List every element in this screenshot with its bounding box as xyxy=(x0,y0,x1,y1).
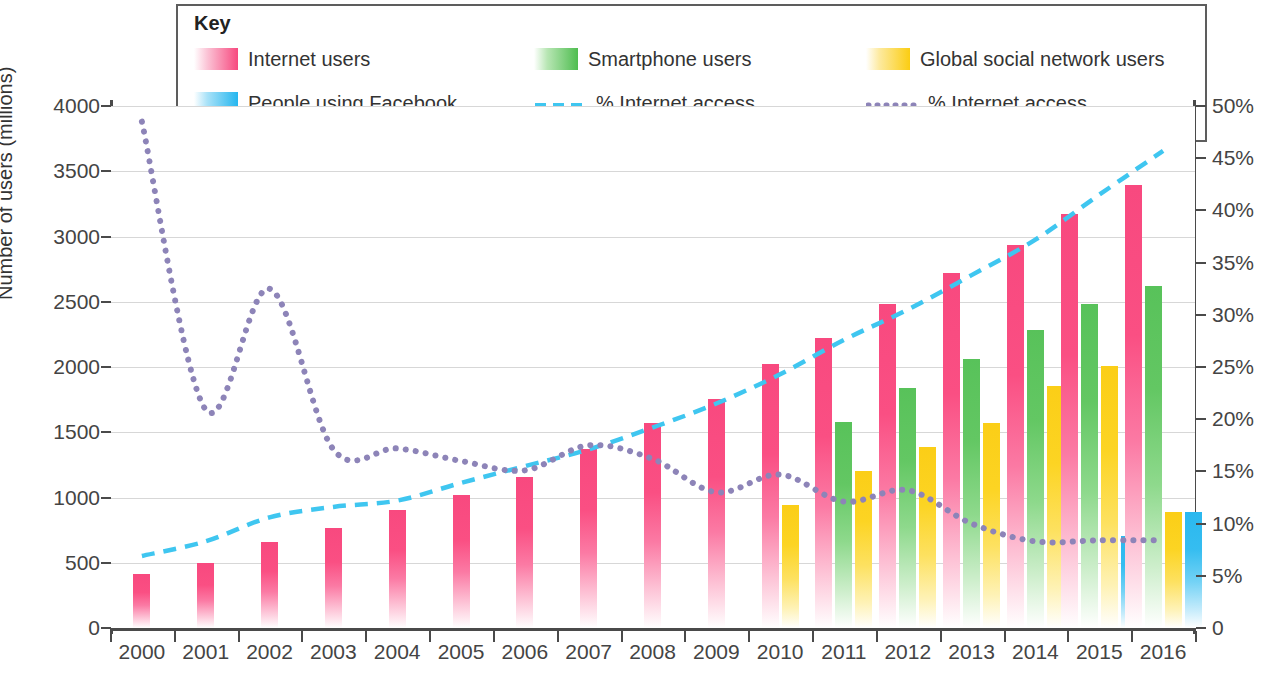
legend-swatch-internet-users-icon xyxy=(194,48,238,70)
y-right-tick-label: 15% xyxy=(1212,460,1254,481)
y-left-tick-label: 2500 xyxy=(53,291,100,312)
legend-label-smartphone-users: Smartphone users xyxy=(588,46,751,72)
y-right-tick xyxy=(1196,262,1206,264)
x-tick-label: 2000 xyxy=(110,640,174,664)
y-right-tick-label: 45% xyxy=(1212,147,1254,168)
legend-swatch-smartphone-users-icon xyxy=(534,48,578,70)
y-right-tick xyxy=(1196,627,1206,629)
y-right-tick-label: 5% xyxy=(1212,565,1242,586)
x-tick-label: 2013 xyxy=(940,640,1004,664)
legend-item-smartphone-users: Smartphone users xyxy=(534,46,751,72)
x-tick-label: 2009 xyxy=(684,640,748,664)
y-left-tick-label: 3000 xyxy=(53,226,100,247)
y-right-tick-label: 10% xyxy=(1212,513,1254,534)
y-left-tick-label: 2000 xyxy=(53,356,100,377)
y-right-tick xyxy=(1196,418,1206,420)
legend-swatch-social-network-users-icon xyxy=(866,48,910,70)
x-tick-label: 2002 xyxy=(238,640,302,664)
y-right-tick xyxy=(1196,470,1206,472)
y-left-tick xyxy=(101,497,111,499)
x-tick-label: 2001 xyxy=(174,640,238,664)
x-tick-label: 2004 xyxy=(365,640,429,664)
y-right-tick-label: 25% xyxy=(1212,356,1254,377)
y-right-tick xyxy=(1196,314,1206,316)
y-right-tick xyxy=(1196,105,1206,107)
x-tick-label: 2012 xyxy=(876,640,940,664)
y-left-tick xyxy=(101,170,111,172)
line-layer xyxy=(110,106,1195,628)
y-right-tick-label: 40% xyxy=(1212,199,1254,220)
x-tick-label: 2010 xyxy=(748,640,812,664)
y-left-tick-label: 0 xyxy=(88,617,100,638)
y-left-tick xyxy=(101,431,111,433)
y-left-tick xyxy=(101,562,111,564)
x-tick xyxy=(1195,631,1197,642)
y-right-tick xyxy=(1196,523,1206,525)
legend-title: Key xyxy=(194,12,231,35)
line-internet-change xyxy=(142,122,1163,543)
legend-label-social-network-users: Global social network users xyxy=(920,46,1165,72)
line-internet-penetration xyxy=(142,151,1163,556)
y-axis-left-title: Number of users (millions) xyxy=(0,67,17,300)
y-left-tick xyxy=(101,105,111,107)
y-right-tick-label: 30% xyxy=(1212,304,1254,325)
y-left-tick xyxy=(101,301,111,303)
y-left-tick xyxy=(101,627,111,629)
y-right-tick-label: 0 xyxy=(1212,617,1224,638)
x-tick-label: 2008 xyxy=(621,640,685,664)
x-tick-label: 2005 xyxy=(429,640,493,664)
y-right-tick-label: 20% xyxy=(1212,408,1254,429)
x-tick-label: 2014 xyxy=(1004,640,1068,664)
plot-area xyxy=(110,106,1195,628)
y-left-tick xyxy=(101,236,111,238)
legend-item-social-network-users: Global social network users xyxy=(866,46,1165,72)
y-left-tick-label: 1500 xyxy=(53,421,100,442)
x-tick-label: 2015 xyxy=(1067,640,1131,664)
y-left-tick xyxy=(101,366,111,368)
y-right-tick xyxy=(1196,575,1206,577)
y-left-tick-label: 4000 xyxy=(53,95,100,116)
y-right-tick-label: 50% xyxy=(1212,95,1254,116)
y-left-tick-label: 500 xyxy=(65,552,100,573)
y-right-tick xyxy=(1196,209,1206,211)
y-right-tick xyxy=(1196,157,1206,159)
y-right-tick-label: 35% xyxy=(1212,252,1254,273)
x-tick-label: 2011 xyxy=(812,640,876,664)
x-tick-label: 2006 xyxy=(493,640,557,664)
legend-label-internet-users: Internet users xyxy=(248,46,370,72)
y-right-tick xyxy=(1196,366,1206,368)
y-left-tick-label: 1000 xyxy=(53,487,100,508)
x-tick-label: 2007 xyxy=(557,640,621,664)
x-axis-line xyxy=(110,628,1196,631)
legend-item-internet-users: Internet users xyxy=(194,46,370,72)
x-tick-label: 2003 xyxy=(301,640,365,664)
chart-canvas: Key Internet users Smartphone users Glob… xyxy=(0,0,1288,677)
y-left-tick-label: 3500 xyxy=(53,160,100,181)
x-tick-label: 2016 xyxy=(1131,640,1195,664)
